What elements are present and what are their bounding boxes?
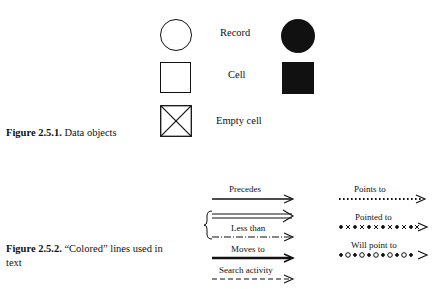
record-filled-circle-icon [281,19,315,53]
cell-label: Cell [228,69,246,80]
precedes-label: Precedes [229,184,261,194]
record-label: Record [220,27,250,38]
pointed-to-x-dot-arrow-icon [339,222,429,232]
figure-title-line1: “Colored” lines used in [64,243,162,254]
figure-number: Figure 2.5.1. [6,127,62,138]
figure-2-5-1-caption: Figure 2.5.1. Data objects [6,126,117,140]
will-point-to-label: Will point to [351,240,397,250]
figure-title-line2: text [6,257,22,268]
empty-cell-label: Empty cell [216,115,262,126]
figure-number: Figure 2.5.2. [6,243,62,254]
points-to-label: Points to [354,184,386,194]
record-outline-circle-icon [160,19,192,51]
pointed-to-label: Pointed to [355,212,392,222]
cell-outline-square-icon [160,62,191,93]
precedes-arrow-icon [212,194,296,204]
figure-2-5-2-caption: Figure 2.5.2. “Colored” lines used in te… [6,242,196,270]
empty-cell-crossed-square-icon [160,105,192,137]
points-to-dotted-arrow-icon [339,194,429,204]
cell-filled-square-icon [282,62,314,94]
less-than-dashdot-arrow-icon [212,232,296,242]
will-point-to-o-dot-arrow-icon [339,250,429,260]
moves-to-thick-arrow-icon [212,253,296,263]
search-activity-dashed-arrow-icon [212,274,296,284]
figure-title: Data objects [64,127,116,138]
less-than-double-arrow-icon [212,210,296,222]
